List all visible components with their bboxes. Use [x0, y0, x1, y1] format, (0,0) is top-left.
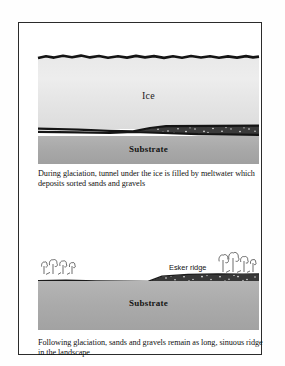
- ice-surface-outline: [38, 53, 259, 62]
- figure-border: Ice: [18, 22, 262, 355]
- panel-following-glaciation: Esker ridge: [38, 244, 259, 330]
- ice-label: Ice: [38, 90, 259, 101]
- substrate-label-2: Substrate: [38, 298, 259, 308]
- substrate-layer-2: Substrate: [38, 281, 259, 330]
- panel-during-glaciation: Ice: [38, 57, 259, 164]
- caption-during-glaciation: During glaciation, tunnel under the ice …: [38, 169, 268, 188]
- figure-page: Ice: [0, 0, 285, 366]
- caption-following-glaciation: Following glaciation, sands and gravels …: [38, 338, 268, 357]
- substrate-label-1: Substrate: [38, 144, 259, 154]
- substrate-layer-1: Substrate: [38, 136, 259, 164]
